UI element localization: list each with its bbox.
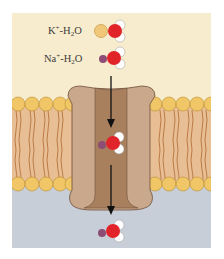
na-water-o: O [75, 53, 83, 64]
k-ion-symbol: K [48, 25, 56, 36]
k-water-o: O [74, 25, 82, 36]
k-water-label: K+-H2O [48, 24, 82, 38]
ion-channel-diagram: K+-H2O Na+-H2O [0, 0, 224, 259]
na-water-label: Na+-H2O [44, 52, 82, 66]
na-ion-symbol: Na [44, 53, 56, 64]
k-water-h: -H [60, 25, 71, 36]
diagram-canvas [0, 0, 224, 259]
na-water-h: -H [60, 53, 71, 64]
lipid-bilayer-left [11, 97, 79, 191]
lipid-bilayer-right [148, 97, 218, 191]
